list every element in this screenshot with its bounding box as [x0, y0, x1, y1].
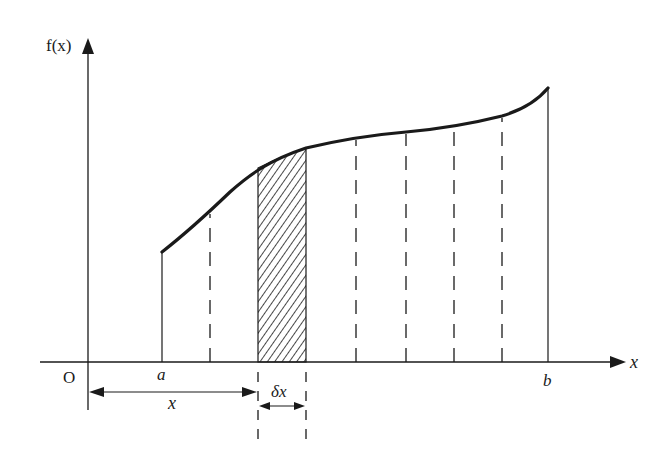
dx-right-arrow-icon [294, 402, 305, 410]
origin-label: O [63, 368, 75, 387]
integral-diagram: f(x) x O a b x δx [0, 0, 672, 463]
y-axis-label: f(x) [46, 36, 71, 55]
diagram-svg: f(x) x O a b x δx [0, 0, 672, 463]
dashed-ordinates [210, 118, 502, 362]
hatched-strip [258, 148, 306, 362]
dx-left-arrow-icon [259, 402, 270, 410]
dx-label: δx [271, 382, 287, 401]
upper-bound-label: b [543, 371, 552, 390]
x-axis-arrow-icon [610, 356, 626, 368]
lower-bound-label: a [157, 365, 166, 384]
x-distance-label: x [167, 393, 176, 413]
function-curve [162, 88, 548, 252]
x-axis-label: x [629, 352, 638, 372]
x-distance-left-arrow-icon [89, 387, 104, 397]
y-axis-arrow-icon [82, 38, 94, 54]
x-distance-right-arrow-icon [242, 387, 257, 397]
